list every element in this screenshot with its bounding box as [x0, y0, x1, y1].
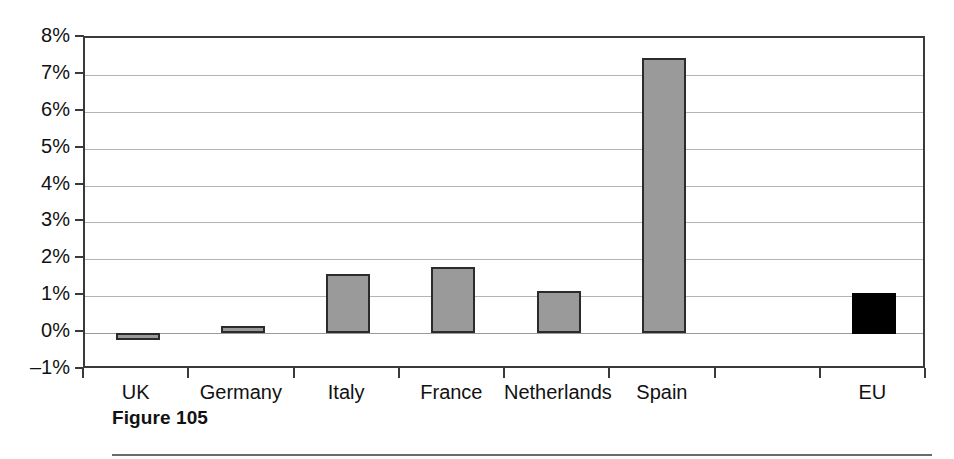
x-axis-tick-label: France [399, 381, 504, 403]
bar-italy [326, 274, 370, 333]
gridline [85, 112, 923, 113]
x-axis-tick-label: Italy [294, 381, 399, 403]
bar-spain [642, 58, 686, 333]
gridline [85, 186, 923, 187]
figure-container: 8%7%6%5%4%3%2%1%0%–1% UKGermanyItalyFran… [0, 0, 954, 459]
x-axis-tick-label: Germany [188, 381, 293, 403]
bar-france [431, 267, 475, 333]
y-axis-tick-label: 7% [8, 62, 70, 82]
y-axis-tick-label: 2% [8, 246, 70, 266]
zero-baseline [85, 333, 923, 334]
x-axis-tick-label: EU [820, 381, 925, 403]
y-axis-tick-label: 4% [8, 173, 70, 193]
caption-divider-rule [112, 454, 932, 456]
y-axis-tick-label: 6% [8, 99, 70, 119]
y-axis-tick-label: 3% [8, 209, 70, 229]
gridline [85, 259, 923, 260]
bar-eu [852, 293, 896, 334]
plot-area [83, 36, 925, 368]
y-axis-tick-label: 8% [8, 25, 70, 45]
x-axis-tick-label: Spain [609, 381, 714, 403]
gridline [85, 222, 923, 223]
x-axis-tick-label: Netherlands [504, 381, 609, 403]
y-axis-tick-label: 5% [8, 136, 70, 156]
x-axis-tick-mark [608, 368, 610, 378]
figure-caption: Figure 105 [112, 406, 932, 430]
x-axis-tick-label: UK [83, 381, 188, 403]
y-axis-tick-label: 1% [8, 283, 70, 303]
gridline [85, 149, 923, 150]
figure-caption-label: Figure 105 [112, 406, 932, 430]
gridline [85, 75, 923, 76]
x-axis-tick-mark [819, 368, 821, 378]
gridline [85, 296, 923, 297]
bar-netherlands [537, 291, 581, 333]
x-axis-tick-mark [714, 368, 716, 378]
bar-uk [116, 333, 160, 340]
x-axis-tick-mark [293, 368, 295, 378]
x-axis-tick-mark [503, 368, 505, 378]
y-axis-tick-label: –1% [8, 357, 70, 377]
x-axis-tick-mark [924, 368, 926, 378]
x-axis-tick-mark [398, 368, 400, 378]
x-axis-tick-mark [82, 368, 84, 378]
y-axis-tick-label: 0% [8, 320, 70, 340]
x-axis-tick-mark [187, 368, 189, 378]
bar-germany [221, 326, 265, 333]
